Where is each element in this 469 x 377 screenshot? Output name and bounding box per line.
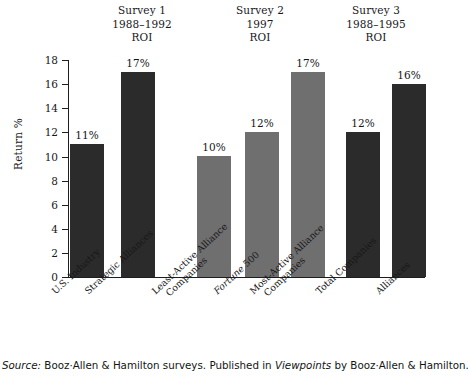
bar-value-total-companies: 12% bbox=[346, 118, 380, 129]
source-note: Source: Booz·Allen & Hamilton surveys. P… bbox=[2, 359, 426, 371]
x-axis-line bbox=[68, 277, 425, 278]
bar-value-least-active-alliance: 10% bbox=[197, 142, 231, 153]
bar-alliances[interactable] bbox=[392, 84, 426, 277]
bar-value-strategic-alliances: 17% bbox=[121, 58, 155, 69]
source-italic-title: Viewpoints bbox=[275, 359, 331, 371]
divider bbox=[0, 352, 427, 353]
bar-value-most-active-alliance: 17% bbox=[291, 58, 325, 69]
source-prefix: Source: bbox=[2, 359, 41, 371]
source-text-2: by Booz·Allen & Hamilton. bbox=[331, 359, 469, 371]
source-text-1: Booz·Allen & Hamilton surveys. Published… bbox=[41, 359, 275, 371]
bar-value-alliances: 16% bbox=[392, 70, 426, 81]
bar-value-us-industry: 11% bbox=[70, 130, 104, 141]
bar-value-fortune-500: 12% bbox=[245, 118, 279, 129]
